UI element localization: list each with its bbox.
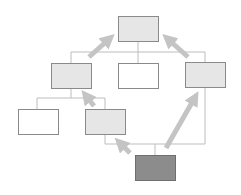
arrow-mid-right-to-top [169, 40, 188, 57]
node-mid-center [119, 64, 159, 89]
node-top [119, 17, 159, 42]
arrow-bottom-to-low-center [121, 144, 130, 153]
arrow-mid-left-to-top [89, 40, 108, 57]
node-bottom [136, 156, 176, 181]
arrows [87, 40, 194, 153]
connector-lines [37, 41, 205, 155]
node-mid-left [52, 64, 92, 89]
node-low-left [19, 110, 59, 135]
hierarchy-diagram [0, 0, 241, 195]
node-low-center [86, 110, 126, 135]
node-mid-right [186, 63, 226, 88]
arrow-bottom-to-mid-right [166, 99, 194, 148]
